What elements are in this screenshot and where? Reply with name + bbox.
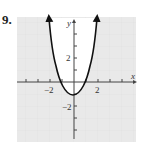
x-tick-label-2: 2 bbox=[95, 85, 100, 95]
graph: −2 2 2 −2 x y bbox=[0, 0, 151, 152]
y-tick-label-neg2: −2 bbox=[62, 102, 72, 112]
x-axis-label: x bbox=[130, 71, 135, 81]
x-tick-label-neg2: −2 bbox=[44, 85, 54, 95]
y-axis-label: y bbox=[66, 18, 71, 28]
y-tick-label-2: 2 bbox=[66, 53, 71, 63]
